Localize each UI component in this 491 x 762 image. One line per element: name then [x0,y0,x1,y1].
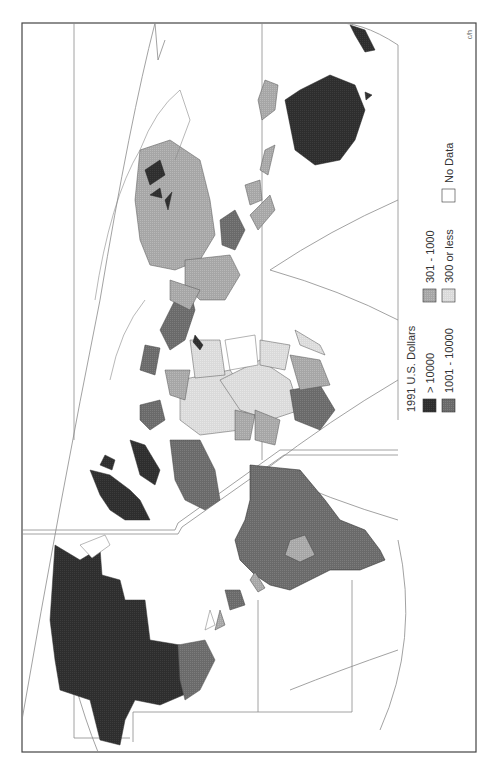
legend-swatch-c2 [442,399,455,412]
legend-swatch-c4 [442,289,455,302]
legend-label-c3: 301 - 1000 [424,230,436,283]
legend: 1991 U.S. Dollars > 10000 301 - 1000 100… [405,142,455,412]
legend-label-c5: No Data [443,142,455,183]
legend-title: 1991 U.S. Dollars [405,325,417,412]
region-europe [90,400,165,520]
credit-text: c/h [466,30,473,39]
legend-label-c2: 1001 - 10000 [443,328,455,393]
legend-swatch-c3 [423,289,436,302]
region-south-america [215,465,385,630]
legend-swatch-c5 [442,189,455,202]
region-oceania [258,25,375,165]
world-map: 1991 U.S. Dollars > 10000 301 - 1000 100… [0,0,491,762]
legend-label-c4: 300 or less [443,229,455,283]
legend-swatch-c1 [423,399,436,412]
legend-label-c1: > 10000 [424,353,436,393]
region-north-america [50,535,215,745]
